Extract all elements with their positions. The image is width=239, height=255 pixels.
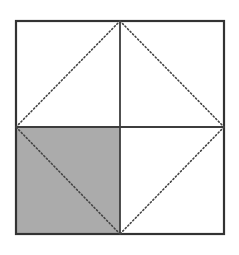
geometry-figure-svg xyxy=(0,0,239,255)
geometry-figure-root xyxy=(0,0,239,255)
